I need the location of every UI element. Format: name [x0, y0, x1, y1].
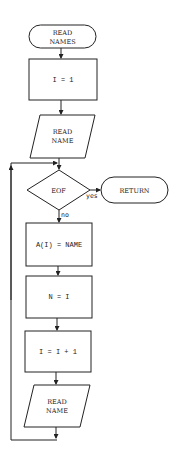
- assign-label: A(I) = NAME: [36, 241, 82, 249]
- start-terminal: READ NAMES: [29, 25, 96, 48]
- increment-process-box: I = I + 1: [25, 331, 91, 372]
- read1-label-line1: READ: [53, 128, 73, 136]
- read1-label-line2: NAME: [52, 137, 74, 145]
- read2-label-line1: READ: [47, 398, 67, 406]
- eof-decision-diamond: EOF: [27, 170, 90, 210]
- read-name-input-1: READ NAME: [30, 115, 95, 158]
- setn-label: N = I: [48, 293, 69, 301]
- assign-process-box: A(I) = NAME: [26, 223, 92, 266]
- init-label: I = 1: [52, 76, 73, 84]
- no-label: no: [61, 211, 69, 219]
- return-label: RETURN: [119, 187, 149, 195]
- init-process-box: I = 1: [29, 59, 97, 100]
- start-label-line1: READ: [53, 29, 73, 37]
- read-name-input-2: READ NAME: [24, 385, 90, 427]
- increment-label: I = I + 1: [39, 348, 77, 356]
- flowchart-diagram: READ NAMES I = 1 READ NAME EOF yes RETUR…: [0, 0, 180, 449]
- read2-label-line2: NAME: [46, 407, 68, 415]
- start-label-line2: NAMES: [49, 38, 75, 46]
- return-terminal: RETURN: [101, 177, 168, 203]
- decision-label: EOF: [51, 187, 66, 195]
- setn-process-box: N = I: [26, 276, 92, 318]
- yes-label: yes: [86, 192, 98, 200]
